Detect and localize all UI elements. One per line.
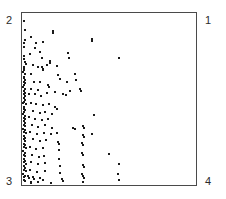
scatter-point	[38, 156, 40, 158]
scatter-point	[32, 64, 34, 66]
scatter-point	[62, 93, 64, 95]
scatter-point	[29, 53, 31, 55]
scatter-point	[25, 170, 27, 172]
scatter-point	[56, 108, 58, 110]
scatter-point	[83, 166, 85, 168]
scatter-point	[37, 163, 39, 165]
scatter-point	[80, 90, 82, 92]
scatter-point	[28, 116, 30, 118]
scatter-point	[56, 65, 58, 67]
scatter-point	[65, 94, 67, 96]
scatter-point	[82, 154, 84, 156]
scatter-point	[29, 131, 31, 133]
scatter-point	[59, 172, 61, 174]
scatter-point	[52, 32, 54, 34]
scatter-point	[25, 63, 27, 65]
scatter-point	[24, 73, 26, 75]
scatter-point	[24, 29, 26, 31]
scatter-point	[37, 89, 39, 91]
scatter-point	[39, 140, 41, 142]
scatter-point	[74, 73, 76, 75]
plot-frame	[21, 12, 197, 186]
scatter-point	[28, 93, 30, 95]
scatter-points-layer	[22, 13, 196, 185]
scatter-point	[35, 148, 37, 150]
scatter-point	[47, 118, 49, 120]
scatter-point	[44, 162, 46, 164]
scatter-point	[83, 127, 85, 129]
scatter-point	[51, 113, 53, 115]
scatter-point	[45, 139, 47, 141]
scatter-point	[42, 179, 44, 181]
scatter-point	[39, 112, 41, 114]
scatter-point	[31, 124, 33, 126]
scatter-point	[62, 180, 64, 182]
scatter-point	[41, 57, 43, 59]
scatter-point	[24, 155, 26, 157]
scatter-point	[117, 173, 119, 175]
scatter-point	[42, 104, 44, 106]
scatter-point	[23, 20, 25, 22]
scatter-point	[25, 132, 27, 134]
scatter-point	[83, 136, 85, 138]
scatter-point	[51, 127, 53, 129]
scatter-point	[36, 133, 38, 135]
scatter-point	[82, 181, 84, 183]
scatter-point	[58, 143, 60, 145]
scatter-point	[118, 179, 120, 181]
scatter-point	[118, 163, 120, 165]
scatter-point	[28, 177, 30, 179]
scatter-point	[24, 180, 26, 182]
scatter-point	[29, 146, 31, 148]
scatter-point	[34, 118, 36, 120]
scatter-point	[59, 78, 61, 80]
scatter-point	[32, 110, 34, 112]
scatter-point	[30, 73, 32, 75]
scatter-point	[30, 102, 32, 104]
scatter-point	[50, 182, 52, 184]
scatter-point	[41, 119, 43, 121]
scatter-point	[43, 132, 45, 134]
scatter-point	[33, 178, 35, 180]
scatter-point	[67, 52, 69, 54]
scatter-point	[43, 155, 45, 157]
scatter-point	[46, 92, 48, 94]
scatter-point	[48, 103, 50, 105]
scatter-point	[91, 40, 93, 42]
scatter-point	[30, 161, 32, 163]
scatter-point	[58, 158, 60, 160]
scatter-point	[50, 133, 52, 135]
scatter-point	[30, 88, 32, 90]
corner-label-top-right: 1	[205, 15, 211, 26]
scatter-point	[35, 42, 37, 44]
scatter-point	[24, 39, 26, 41]
scatter-point	[23, 46, 25, 48]
corner-label-bottom-left: 3	[6, 176, 12, 187]
scatter-point	[56, 132, 58, 134]
scatter-point	[24, 125, 26, 127]
scatter-point	[37, 66, 39, 68]
scatter-point	[83, 177, 85, 179]
scatter-point	[118, 57, 120, 59]
scatter-point	[40, 95, 42, 97]
scatter-point	[25, 163, 27, 165]
corner-label-top-left: 2	[6, 15, 12, 26]
scatter-point	[30, 182, 32, 184]
scatter-point	[46, 64, 48, 66]
scatter-point	[74, 128, 76, 130]
scatter-point	[25, 147, 27, 149]
scatter-point	[48, 86, 50, 88]
scatter-point	[39, 81, 41, 83]
scatter-point	[82, 144, 84, 146]
scatter-point	[59, 165, 61, 167]
scatter-point	[44, 124, 46, 126]
scatter-point	[58, 149, 60, 151]
scatter-point	[35, 103, 37, 105]
scatter-plot-figure: 2 1 3 4	[0, 0, 226, 199]
scatter-point	[42, 147, 44, 149]
scatter-point	[37, 181, 39, 183]
scatter-point	[24, 140, 26, 142]
scatter-point	[29, 169, 31, 171]
scatter-point	[30, 36, 32, 38]
scatter-point	[37, 126, 39, 128]
